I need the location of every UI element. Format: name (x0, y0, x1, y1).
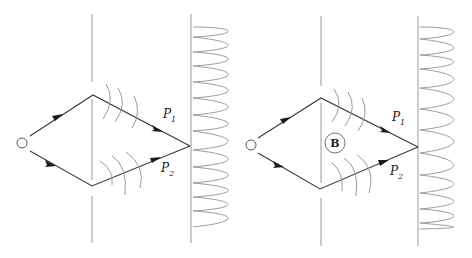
panel-left: P1 P2 (17, 14, 228, 243)
arrow-icon (151, 125, 163, 132)
two-slit-diagram: P1 P2 (0, 0, 472, 258)
arrow-icon (378, 160, 389, 166)
source-icon (246, 140, 256, 150)
wavefronts-bottom (100, 152, 141, 195)
arrow-icon (273, 161, 284, 168)
wavefronts-top (103, 84, 138, 128)
interference-pattern (193, 27, 228, 227)
wavefronts-top (332, 89, 365, 131)
field-label: B (330, 137, 339, 150)
interference-pattern (420, 27, 454, 229)
panel-right: B P1 P2 (246, 16, 454, 246)
path-label-p1: P1 (391, 110, 405, 127)
magnetic-field-region: B (325, 133, 345, 153)
source-icon (17, 138, 27, 148)
path-label-p1: P1 (162, 107, 176, 124)
arrow-icon (52, 114, 63, 121)
path-label-p2: P2 (160, 161, 174, 178)
arrow-icon (379, 126, 391, 133)
path-label-p2: P2 (389, 164, 403, 181)
arrow-icon (150, 157, 161, 163)
arrow-icon (45, 160, 56, 167)
